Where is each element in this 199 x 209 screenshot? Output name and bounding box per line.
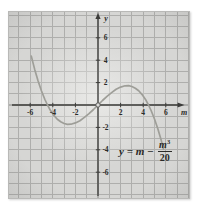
equation-denominator: 20 [158,151,172,164]
x-tick-label: 4 [141,108,145,117]
x-tick-label: -2 [72,108,78,117]
x-tick-label: 2 [119,108,123,117]
x-tick-label: -4 [50,108,56,117]
equation-numerator: m3 [159,139,170,151]
graph-paper: m y -6-4-2246642-2-4-6 y = m − m3 20 [8,11,190,199]
equation-fraction: m3 20 [158,139,172,163]
equation-lhs: y = m − [119,145,154,157]
figure: m y -6-4-2246642-2-4-6 y = m − m3 20 [0,0,199,209]
x-axis-arrow-icon [178,102,185,107]
y-tick-label: 6 [104,33,108,42]
y-tick-label: -4 [102,145,108,154]
y-tick-label: 2 [104,78,108,87]
y-tick-label: -2 [102,123,108,132]
x-axis-letter: m [181,108,187,117]
function-plot: m y -6-4-2246642-2-4-6 [9,12,189,198]
x-tick-label: 6 [164,108,168,117]
y-tick-label: -6 [102,168,108,177]
y-tick-label: 4 [104,56,108,65]
y-axis-letter: y [103,14,108,23]
origin-point [96,103,100,107]
y-axis-arrow-icon [95,13,100,19]
equation-label: y = m − m3 20 [119,139,172,163]
x-tick-label: -6 [27,108,33,117]
